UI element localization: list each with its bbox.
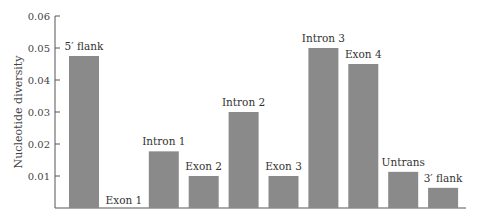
bar-label: Untrans	[382, 156, 425, 168]
bar	[229, 112, 259, 208]
y-tick-label: 0.01	[28, 171, 50, 182]
y-axis-label: Nucleotide diversity	[12, 55, 25, 169]
bar	[149, 151, 179, 208]
bar-label: Exon 4	[345, 48, 382, 60]
y-tick-label: 0.02	[28, 139, 50, 150]
bars: 5′ flankExon 1Intron 1Exon 2Intron 2Exon…	[65, 32, 464, 208]
bar-label: Intron 3	[302, 32, 345, 44]
bar-label: 5′ flank	[65, 40, 104, 52]
bar-label: Intron 1	[142, 135, 185, 147]
bar-label: Exon 2	[185, 160, 222, 172]
bar	[69, 56, 99, 208]
bar-label: Exon 3	[265, 160, 302, 172]
y-tick-label: 0.05	[28, 43, 50, 54]
bar-chart: 0.010.020.030.040.050.06 Nucleotide dive…	[0, 0, 477, 221]
y-tick-label: 0.06	[28, 11, 50, 22]
bar	[189, 176, 219, 208]
y-tick-label: 0.03	[28, 107, 50, 118]
y-tick-label: 0.04	[28, 75, 50, 86]
bar-label: Intron 2	[222, 96, 265, 108]
bar	[308, 48, 338, 208]
bar	[269, 176, 299, 208]
bar-label: 3′ flank	[424, 172, 463, 184]
bar	[348, 64, 378, 208]
bar	[428, 188, 458, 208]
bar-label: Exon 1	[106, 194, 143, 206]
bar	[388, 172, 418, 208]
